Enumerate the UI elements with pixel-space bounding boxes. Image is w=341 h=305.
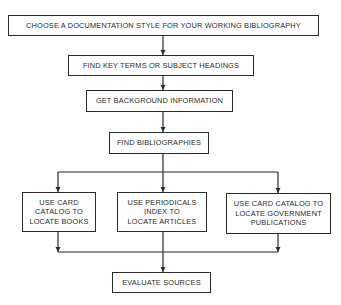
node-evaluate-sources: EVALUATE SOURCES [112, 272, 211, 293]
node-label: USE CARD CATALOG TO LOCATE GOVERNMENT PU… [234, 199, 323, 228]
arrow-head-icon [276, 247, 281, 252]
node-card-catalog-books: USE CARD CATALOG TO LOCATE BOOKS [22, 192, 96, 232]
node-find-key-terms: FIND KEY TERMS OR SUBJECT HEADINGS [68, 55, 254, 76]
node-label: GET BACKGROUND INFORMATION [96, 96, 223, 106]
node-label: USE CARD CATALOG TO LOCATE BOOKS [29, 198, 88, 227]
node-find-bibliographies: FIND BIBLIOGRAPHIES [109, 132, 209, 154]
node-label: CHOOSE A DOCUMENTATION STYLE FOR YOUR WO… [26, 21, 301, 31]
arrow-head-icon [56, 247, 61, 252]
node-label: FIND BIBLIOGRAPHIES [117, 138, 201, 148]
node-label: USE PERIODICALS INDEX TO LOCATE ARTICLES [127, 198, 196, 227]
node-label: FIND KEY TERMS OR SUBJECT HEADINGS [83, 61, 239, 71]
node-card-catalog-gov: USE CARD CATALOG TO LOCATE GOVERNMENT PU… [226, 193, 331, 234]
node-background-info: GET BACKGROUND INFORMATION [86, 90, 233, 112]
node-periodicals-index: USE PERIODICALS INDEX TO LOCATE ARTICLES [117, 192, 207, 232]
node-choose-style: CHOOSE A DOCUMENTATION STYLE FOR YOUR WO… [8, 15, 319, 36]
node-label: EVALUATE SOURCES [122, 278, 201, 288]
